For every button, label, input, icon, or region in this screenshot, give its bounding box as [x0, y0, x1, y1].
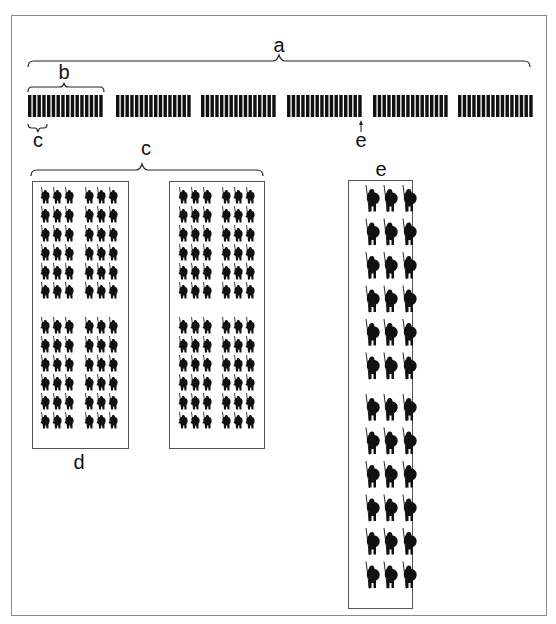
soldier-icon — [403, 252, 417, 279]
soldier-icon — [366, 562, 380, 589]
soldier-icon — [109, 206, 118, 223]
soldier-icon — [53, 374, 62, 391]
soldier-icon — [222, 225, 231, 242]
soldier-icon — [85, 225, 94, 242]
soldier-icon — [85, 187, 94, 204]
soldier-icon — [191, 412, 200, 429]
soldier-icon — [234, 355, 243, 372]
soldier-icon — [366, 319, 380, 346]
soldier-icon — [366, 394, 380, 421]
soldier-icon — [53, 206, 62, 223]
soldier-icon — [53, 225, 62, 242]
soldier-icon — [403, 562, 417, 589]
soldier-icon — [85, 393, 94, 410]
soldier-icon — [41, 412, 50, 429]
soldier-icon — [179, 355, 188, 372]
soldier-icon — [179, 393, 188, 410]
soldier-icon — [179, 206, 188, 223]
soldier-icon — [384, 286, 398, 313]
soldier-icon — [97, 393, 106, 410]
soldier-icon — [85, 355, 94, 372]
soldier-icon — [65, 244, 74, 261]
soldier-icon — [246, 244, 255, 261]
soldier-icon — [246, 187, 255, 204]
soldier-icon — [97, 244, 106, 261]
soldier-icon — [109, 187, 118, 204]
soldier-icon — [222, 393, 231, 410]
soldier-icon — [53, 336, 62, 353]
soldier-icon — [85, 336, 94, 353]
soldier-icon — [234, 206, 243, 223]
soldier-icon — [109, 412, 118, 429]
soldier-icon — [246, 225, 255, 242]
soldier-icon — [41, 374, 50, 391]
soldier-icon — [65, 282, 74, 299]
soldier-icon — [234, 225, 243, 242]
soldier-icon — [41, 336, 50, 353]
soldier-figures — [0, 0, 556, 624]
soldier-icon — [403, 428, 417, 455]
soldier-icon — [53, 282, 62, 299]
soldier-icon — [234, 187, 243, 204]
soldier-icon — [41, 244, 50, 261]
soldier-icon — [234, 244, 243, 261]
soldier-icon — [97, 206, 106, 223]
soldier-icon — [246, 412, 255, 429]
soldier-icon — [179, 244, 188, 261]
soldier-icon — [234, 282, 243, 299]
soldier-icon — [384, 495, 398, 522]
soldier-icon — [179, 336, 188, 353]
soldier-icon — [97, 187, 106, 204]
soldier-icon — [222, 187, 231, 204]
soldier-icon — [403, 353, 417, 380]
soldier-icon — [234, 263, 243, 280]
soldier-icon — [366, 461, 380, 488]
soldier-icon — [246, 282, 255, 299]
soldier-icon — [85, 317, 94, 334]
soldier-icon — [234, 374, 243, 391]
soldier-icon — [222, 336, 231, 353]
soldier-icon — [366, 528, 380, 555]
soldier-icon — [53, 317, 62, 334]
soldier-icon — [65, 336, 74, 353]
soldier-icon — [384, 461, 398, 488]
soldier-icon — [203, 336, 212, 353]
soldier-icon — [403, 495, 417, 522]
soldier-icon — [191, 355, 200, 372]
soldier-icon — [191, 317, 200, 334]
soldier-icon — [246, 393, 255, 410]
soldier-icon — [384, 428, 398, 455]
soldier-icon — [384, 562, 398, 589]
soldier-icon — [65, 206, 74, 223]
soldier-icon — [403, 461, 417, 488]
soldier-icon — [109, 336, 118, 353]
soldier-icon — [222, 374, 231, 391]
soldier-icon — [65, 355, 74, 372]
soldier-icon — [222, 317, 231, 334]
soldier-icon — [41, 282, 50, 299]
soldier-icon — [179, 225, 188, 242]
soldier-icon — [222, 244, 231, 261]
soldier-icon — [109, 393, 118, 410]
soldier-icon — [403, 528, 417, 555]
soldier-icon — [234, 393, 243, 410]
soldier-icon — [246, 263, 255, 280]
soldier-icon — [97, 317, 106, 334]
soldier-icon — [85, 282, 94, 299]
soldier-icon — [41, 393, 50, 410]
soldier-icon — [203, 187, 212, 204]
soldier-icon — [246, 336, 255, 353]
soldier-icon — [203, 282, 212, 299]
soldier-icon — [366, 353, 380, 380]
soldier-icon — [366, 286, 380, 313]
soldier-icon — [53, 263, 62, 280]
soldier-icon — [97, 374, 106, 391]
soldier-icon — [65, 263, 74, 280]
soldier-icon — [203, 225, 212, 242]
soldier-icon — [246, 374, 255, 391]
soldier-icon — [85, 244, 94, 261]
soldier-icon — [41, 225, 50, 242]
soldier-icon — [366, 185, 380, 212]
soldier-icon — [97, 282, 106, 299]
soldier-icon — [179, 412, 188, 429]
